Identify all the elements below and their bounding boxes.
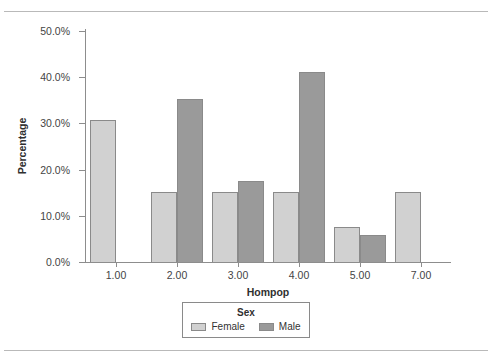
bar-cluster: [207, 31, 268, 262]
y-tick-label: 50.0%: [0, 25, 70, 37]
bar-female[interactable]: [334, 227, 360, 262]
plot-area: [85, 31, 451, 262]
bar-female[interactable]: [90, 120, 116, 262]
bar-male[interactable]: [177, 99, 203, 262]
bar-male[interactable]: [360, 235, 386, 262]
y-tick-mark: [79, 216, 85, 217]
x-tick-mark: [238, 262, 239, 267]
y-tick-label: 10.0%: [0, 210, 70, 222]
legend-swatch-icon: [259, 323, 274, 331]
x-tick-label: 1.00: [106, 269, 126, 281]
x-tick-mark: [116, 262, 117, 267]
y-tick-mark: [79, 123, 85, 124]
y-tick-mark: [79, 77, 85, 78]
bar-female[interactable]: [273, 192, 299, 262]
bar-male[interactable]: [299, 72, 325, 262]
bar-cluster: [329, 31, 390, 262]
legend-items: FemaleMale: [189, 321, 303, 332]
y-tick-label: 0.0%: [0, 256, 70, 268]
figure-bottom-rule: [4, 350, 488, 351]
x-tick-label: 2.00: [167, 269, 187, 281]
legend-item[interactable]: Female: [191, 321, 244, 332]
y-tick-mark: [79, 170, 85, 171]
figure-top-rule: [4, 11, 488, 12]
y-tick-label: 20.0%: [0, 164, 70, 176]
x-tick-label: 7.00: [411, 269, 431, 281]
y-tick-mark: [79, 31, 85, 32]
legend: Sex FemaleMale: [182, 302, 310, 338]
x-tick-mark: [421, 262, 422, 267]
y-tick-mark: [79, 262, 85, 263]
x-tick-mark: [177, 262, 178, 267]
bar-cluster: [390, 31, 451, 262]
bar-female[interactable]: [151, 192, 177, 262]
x-axis-line: [85, 262, 451, 263]
x-tick-label: 4.00: [289, 269, 309, 281]
bar-male[interactable]: [238, 181, 264, 262]
bar-cluster: [268, 31, 329, 262]
bar-cluster: [85, 31, 146, 262]
x-tick-label: 3.00: [228, 269, 248, 281]
legend-label: Male: [279, 321, 301, 332]
y-tick-label: 40.0%: [0, 71, 70, 83]
x-axis-title: Hompop: [85, 286, 451, 298]
bar-female[interactable]: [395, 192, 421, 262]
legend-swatch-icon: [191, 323, 206, 331]
bar-cluster: [146, 31, 207, 262]
chart-figure: Percentage Hompop 0.0%10.0%20.0%30.0%40.…: [0, 0, 492, 364]
bar-female[interactable]: [212, 192, 238, 262]
y-tick-label: 30.0%: [0, 117, 70, 129]
legend-item[interactable]: Male: [259, 321, 301, 332]
x-tick-label: 5.00: [350, 269, 370, 281]
legend-title: Sex: [189, 307, 303, 318]
x-tick-mark: [299, 262, 300, 267]
legend-label: Female: [211, 321, 244, 332]
x-tick-mark: [360, 262, 361, 267]
